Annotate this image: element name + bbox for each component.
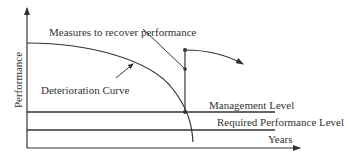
required-level-label: Required Performance Level xyxy=(217,116,344,128)
management-level-label: Management Level xyxy=(209,99,294,111)
deterioration-leader-arrow xyxy=(116,64,133,78)
performance-diagram: Performance Years Measures to recover pe… xyxy=(0,0,349,157)
x-axis-label: Years xyxy=(268,133,293,145)
recovered-curve xyxy=(185,50,243,64)
management-intersect-dot xyxy=(183,110,187,114)
deterioration-label: Deterioration Curve xyxy=(41,84,129,96)
measures-label: Measures to recover performance xyxy=(49,26,197,38)
y-axis-label: Performance xyxy=(12,52,24,108)
